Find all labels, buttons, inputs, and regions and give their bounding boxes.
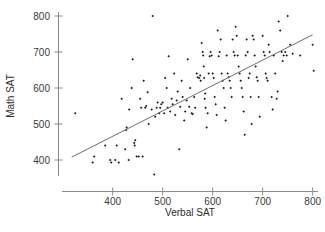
scatter-point xyxy=(233,54,236,57)
scatter-point xyxy=(120,98,123,101)
scatter-point xyxy=(232,51,235,54)
scatter-point xyxy=(254,65,257,68)
scatter-point xyxy=(252,38,255,41)
chart-canvas: 400500600700800 400500600700800 Verbal S… xyxy=(0,0,325,232)
scatter-point xyxy=(188,105,191,108)
scatter-point xyxy=(277,20,280,23)
scatter-point xyxy=(220,72,223,75)
scatter-point xyxy=(193,96,196,99)
scatter-point xyxy=(268,51,271,54)
scatter-point xyxy=(245,38,248,41)
scatter-point xyxy=(151,15,154,18)
scatter-point xyxy=(225,54,228,57)
scatter-point xyxy=(264,72,267,75)
scatter-point xyxy=(241,96,244,99)
scatter-point xyxy=(167,55,170,58)
scatter-point xyxy=(312,69,315,72)
scatter-point xyxy=(299,54,302,57)
scatter-point xyxy=(219,38,222,41)
scatter-point xyxy=(169,110,172,113)
scatter-point xyxy=(130,87,133,90)
scatter-point xyxy=(163,112,166,115)
scatter-point xyxy=(115,144,118,147)
scatter-point xyxy=(140,107,143,110)
scatter-point xyxy=(266,80,269,83)
scatter-point xyxy=(139,98,142,101)
scatter-point xyxy=(204,92,207,95)
scatter-point xyxy=(159,107,162,110)
scatter-point xyxy=(185,99,188,102)
scatter-point xyxy=(181,96,184,99)
scatter-point xyxy=(93,155,96,158)
scatter-point xyxy=(256,80,259,83)
scatter-point xyxy=(91,161,94,164)
scatter-point xyxy=(282,54,285,57)
scatter-point xyxy=(210,54,213,57)
scatter-point xyxy=(104,144,107,147)
scatter-point xyxy=(200,42,203,45)
y-axis-tick-labels: 400500600700800 xyxy=(33,11,50,166)
scatter-point xyxy=(216,29,219,32)
x-axis-tick-labels: 400500600700800 xyxy=(104,196,321,207)
scatter-point xyxy=(150,108,153,111)
y-tick-label: 600 xyxy=(33,83,50,94)
scatter-point xyxy=(180,80,183,83)
scatter-point xyxy=(109,159,112,162)
scatter-point xyxy=(211,72,214,75)
scatter-point xyxy=(258,116,261,119)
scatter-point xyxy=(110,161,113,164)
scatter-plot-figure: 400500600700800 400500600700800 Verbal S… xyxy=(0,0,325,232)
scatter-point xyxy=(226,72,229,75)
x-tick-label: 800 xyxy=(304,196,321,207)
scatter-point xyxy=(215,114,218,117)
scatter-point xyxy=(212,77,215,80)
scatter-point xyxy=(224,119,227,122)
scatter-point xyxy=(205,126,208,129)
scatter-point xyxy=(243,134,246,137)
scatter-point xyxy=(156,101,159,104)
scatter-point xyxy=(249,96,252,99)
scatter-point xyxy=(178,148,181,151)
y-tick-label: 400 xyxy=(33,155,50,166)
scatter-point xyxy=(247,77,250,80)
scatter-point xyxy=(201,51,204,54)
scatter-point xyxy=(228,80,231,83)
scatter-point xyxy=(274,72,277,75)
scatter-point xyxy=(147,123,150,126)
scatter-point xyxy=(230,96,233,99)
scatter-point xyxy=(137,155,140,158)
scatter-point xyxy=(179,105,182,108)
scatter-point xyxy=(217,55,220,58)
scatter-point xyxy=(176,90,179,93)
scatter-point xyxy=(203,98,206,101)
scatter-point xyxy=(134,139,137,142)
scatter-point xyxy=(183,119,186,122)
x-tick-label: 500 xyxy=(154,196,171,207)
scatter-point xyxy=(263,54,266,57)
scatter-point xyxy=(236,54,239,57)
scatter-point xyxy=(206,112,209,115)
scatter-point xyxy=(195,72,198,75)
y-tick-label: 500 xyxy=(33,119,50,130)
scatter-point xyxy=(262,51,265,54)
scatter-point xyxy=(255,76,258,79)
scatter-point xyxy=(146,91,149,94)
scatter-point xyxy=(270,96,273,99)
scatter-point xyxy=(133,144,136,147)
scatter-point xyxy=(202,54,205,57)
scatter-point xyxy=(244,54,247,57)
scatter-point xyxy=(173,72,176,75)
scatter-point xyxy=(235,35,238,38)
scatter-point xyxy=(164,77,167,80)
scatter-point xyxy=(231,38,234,41)
scatter-point xyxy=(253,54,256,57)
scatter-point xyxy=(186,58,189,61)
scatter-point xyxy=(202,65,205,68)
scatter-point xyxy=(203,77,206,80)
y-tick-label: 800 xyxy=(33,11,50,22)
scatter-point xyxy=(276,90,279,93)
scatter-point xyxy=(285,54,288,57)
scatter-point xyxy=(265,77,268,80)
scatter-point xyxy=(267,44,270,47)
scatter-point xyxy=(153,173,156,176)
